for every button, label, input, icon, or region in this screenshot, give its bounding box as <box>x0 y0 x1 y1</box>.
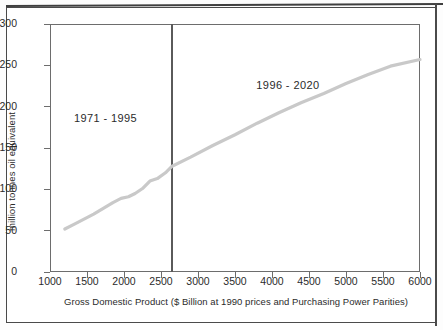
y-axis-tick <box>44 24 50 25</box>
annotation-projection-period: 1996 - 2020 <box>256 79 319 91</box>
y-axis-tick-label: 0 <box>0 266 17 277</box>
y-axis-tick <box>44 230 50 231</box>
y-axis-tick <box>44 65 50 66</box>
y-axis-tick <box>44 272 50 273</box>
x-axis-title: Gross Domestic Product ($ Billion at 199… <box>50 296 422 307</box>
y-axis-tick-label: 300 <box>0 18 17 29</box>
y-axis-tick <box>44 106 50 107</box>
y-axis-tick <box>44 148 50 149</box>
line-chart: 050100150200250300 100015002000250030003… <box>0 0 443 330</box>
scanned-page: 050100150200250300 100015002000250030003… <box>0 0 443 330</box>
period-divider-line <box>171 24 172 272</box>
y-axis-title: million tonnes oil equivalent <box>6 96 20 246</box>
x-axis-tick-label: 6000 <box>397 276 443 287</box>
annotation-historical-period: 1971 - 1995 <box>74 112 137 124</box>
y-axis-tick-label: 250 <box>0 59 17 70</box>
y-axis-tick <box>44 189 50 190</box>
plot-area <box>50 24 420 272</box>
